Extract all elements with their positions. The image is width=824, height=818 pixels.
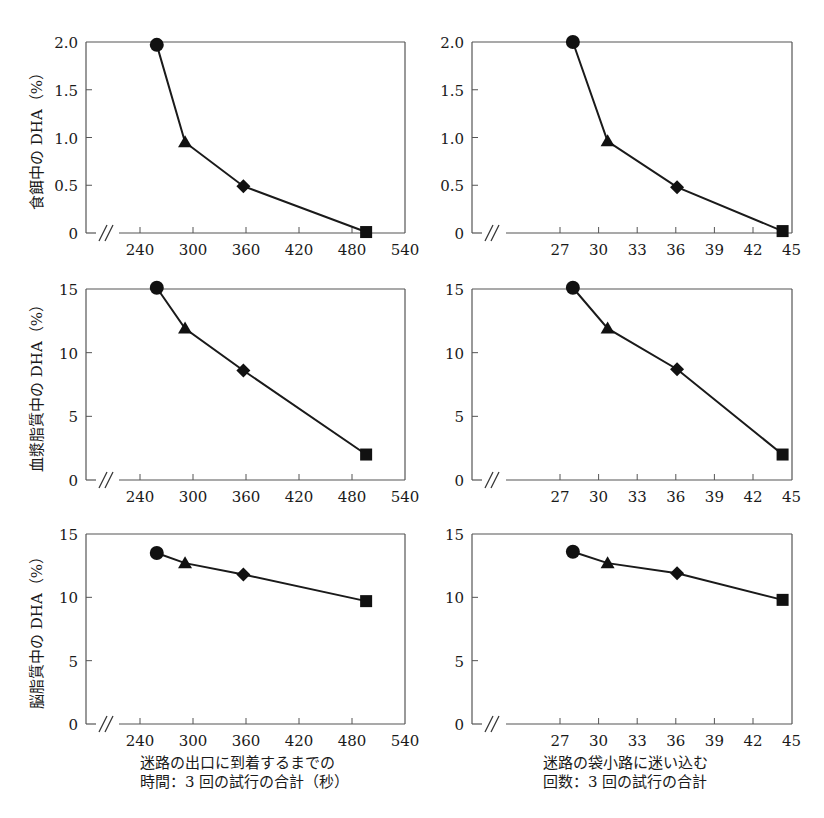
x-tick-label: 540: [391, 488, 420, 506]
x-tick-label: 240: [126, 488, 155, 506]
y-tick-label: 0: [454, 716, 464, 734]
x-tick-label: 420: [285, 241, 314, 259]
x-tick-label: 360: [232, 488, 261, 506]
square-marker: [360, 226, 372, 238]
x-tick-label: 30: [589, 488, 608, 506]
x-axis-label-left-line2: 時間：3 回の試行の合計（秒）: [140, 773, 400, 792]
series-line: [157, 288, 366, 455]
x-tick-label: 540: [391, 241, 420, 259]
chart-panel-row2-left: 051015240300360420480540血漿脂質中の DHA（%）: [28, 281, 419, 506]
x-tick-label: 39: [705, 488, 724, 506]
square-marker: [360, 595, 372, 607]
x-tick-label: 42: [743, 488, 762, 506]
circle-marker: [150, 281, 164, 295]
square-marker: [777, 594, 789, 606]
x-tick-label: 33: [628, 488, 647, 506]
figure-canvas: 00.51.01.52.0240300360420480540食餌中の DHA（…: [0, 0, 824, 818]
x-tick-label: 420: [285, 732, 314, 750]
y-tick-label: 0: [68, 225, 78, 243]
series-line: [157, 553, 366, 601]
y-tick-label: 0.5: [440, 177, 464, 195]
y-tick-label: 5: [454, 653, 464, 671]
y-tick-label: 10: [445, 345, 464, 363]
x-tick-label: 36: [666, 732, 685, 750]
x-tick-label: 39: [705, 241, 724, 259]
x-tick-label: 42: [743, 241, 762, 259]
x-tick-label: 45: [782, 241, 801, 259]
circle-marker: [150, 546, 164, 560]
x-tick-label: 540: [391, 732, 420, 750]
y-axis-label: 食餌中の DHA（%）: [28, 65, 46, 210]
triangle-marker: [178, 321, 192, 333]
x-tick-label: 33: [628, 241, 647, 259]
chart-panel-row2-right: 05101527303336394245: [445, 281, 801, 506]
x-axis-label-left: 迷路の出口に到着するまでの 時間：3 回の試行の合計（秒）: [140, 754, 400, 792]
chart-panel-row3-left: 051015240300360420480540脳脂質中の DHA（%）: [28, 526, 419, 750]
y-tick-label: 1.5: [440, 82, 464, 100]
y-tick-label: 2.0: [440, 34, 464, 52]
y-tick-label: 5: [454, 408, 464, 426]
circle-marker: [566, 35, 580, 49]
y-tick-label: 15: [445, 281, 464, 299]
x-tick-label: 300: [179, 241, 208, 259]
series-line: [157, 45, 366, 232]
diamond-marker: [236, 363, 250, 377]
x-tick-label: 30: [589, 732, 608, 750]
y-tick-label: 1.0: [54, 130, 78, 148]
chart-panel-row1-left: 00.51.01.52.0240300360420480540食餌中の DHA（…: [28, 34, 419, 259]
x-tick-label: 240: [126, 241, 155, 259]
triangle-marker: [601, 134, 615, 146]
y-tick-label: 15: [59, 281, 78, 299]
x-axis-label-right-line2: 回数：3 回の試行の合計: [543, 773, 803, 792]
x-tick-label: 360: [232, 732, 261, 750]
x-axis-label-left-line1: 迷路の出口に到着するまでの: [140, 754, 400, 773]
dha-figure: 00.51.01.52.0240300360420480540食餌中の DHA（…: [0, 0, 824, 818]
x-tick-label: 480: [338, 241, 367, 259]
y-tick-label: 0: [68, 472, 78, 490]
x-tick-label: 360: [232, 241, 261, 259]
y-tick-label: 5: [68, 408, 78, 426]
y-tick-label: 15: [445, 526, 464, 544]
chart-panel-row1-right: 00.51.01.52.027303336394245: [440, 34, 801, 259]
x-tick-label: 480: [338, 732, 367, 750]
y-tick-label: 10: [59, 589, 78, 607]
diamond-marker: [236, 568, 250, 582]
x-tick-label: 420: [285, 488, 314, 506]
y-tick-label: 0: [454, 225, 464, 243]
y-tick-label: 10: [59, 345, 78, 363]
chart-panel-row3-right: 05101527303336394245: [445, 526, 801, 750]
x-tick-label: 33: [628, 732, 647, 750]
x-tick-label: 36: [666, 488, 685, 506]
diamond-marker: [670, 566, 684, 580]
y-tick-label: 1.5: [54, 82, 78, 100]
y-tick-label: 10: [445, 589, 464, 607]
triangle-marker: [178, 135, 192, 147]
y-tick-label: 5: [68, 653, 78, 671]
square-marker: [777, 225, 789, 237]
x-tick-label: 39: [705, 732, 724, 750]
x-axis-label-right: 迷路の袋小路に迷い込む 回数：3 回の試行の合計: [543, 754, 803, 792]
circle-marker: [566, 281, 580, 295]
x-tick-label: 27: [550, 241, 569, 259]
y-tick-label: 1.0: [440, 130, 464, 148]
series-line: [573, 42, 783, 231]
x-tick-label: 480: [338, 488, 367, 506]
x-tick-label: 240: [126, 732, 155, 750]
x-tick-label: 30: [589, 241, 608, 259]
x-tick-label: 27: [550, 732, 569, 750]
x-tick-label: 42: [743, 732, 762, 750]
circle-marker: [150, 38, 164, 52]
y-tick-label: 15: [59, 526, 78, 544]
square-marker: [777, 449, 789, 461]
square-marker: [360, 449, 372, 461]
y-axis-label: 脳脂質中の DHA（%）: [28, 549, 46, 709]
x-tick-label: 45: [782, 488, 801, 506]
y-axis-label: 血漿脂質中の DHA（%）: [28, 297, 46, 472]
y-tick-label: 0: [68, 716, 78, 734]
x-axis-label-right-line1: 迷路の袋小路に迷い込む: [543, 754, 803, 773]
x-tick-label: 300: [179, 488, 208, 506]
x-tick-label: 27: [550, 488, 569, 506]
y-tick-label: 0: [454, 472, 464, 490]
x-tick-label: 45: [782, 732, 801, 750]
x-tick-label: 300: [179, 732, 208, 750]
